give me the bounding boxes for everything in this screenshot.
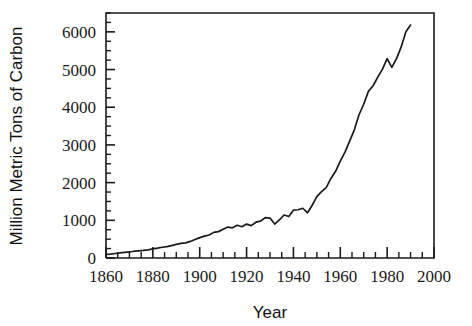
x-tick-label: 1860: [89, 267, 123, 286]
x-tick-label: 1940: [276, 267, 310, 286]
y-tick-label: 5000: [62, 61, 96, 80]
x-tick-label: 1980: [370, 267, 404, 286]
emissions-line-chart: 0100020003000400050006000 18601880190019…: [0, 0, 472, 326]
x-tick-label: 1920: [230, 267, 264, 286]
x-tick-label: 1880: [136, 267, 170, 286]
y-tick-label: 1000: [62, 211, 96, 230]
y-tick-label: 4000: [62, 98, 96, 117]
chart-page: 0100020003000400050006000 18601880190019…: [0, 0, 472, 326]
x-tick-label: 1900: [183, 267, 217, 286]
x-tick-label: 1960: [323, 267, 357, 286]
y-tick-label: 3000: [62, 136, 96, 155]
x-tick-label: 2000: [417, 267, 451, 286]
x-axis-title: Year: [253, 303, 288, 322]
y-tick-label: 0: [88, 249, 97, 268]
y-tick-label: 2000: [62, 174, 96, 193]
y-axis-title: Million Metric Tons of Carbon: [7, 27, 26, 246]
y-tick-label: 6000: [62, 23, 96, 42]
